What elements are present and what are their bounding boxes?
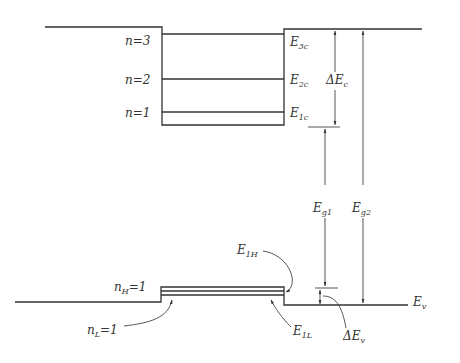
label-E1L: E1L xyxy=(292,324,312,340)
label-delta-Ec: ΔEc xyxy=(325,73,348,89)
label-n3: n=3 xyxy=(125,34,151,48)
label-Ev: Ev xyxy=(412,295,427,311)
label-E3c: E3c xyxy=(289,35,309,51)
label-nL: nL=1 xyxy=(87,323,118,339)
label-n2: n=2 xyxy=(125,73,150,87)
conduction-band-edge xyxy=(45,27,422,125)
label-n1: n=1 xyxy=(125,106,150,120)
label-nH: nH=1 xyxy=(114,280,146,296)
valence-subbands xyxy=(161,291,284,295)
conduction-subbands xyxy=(162,34,284,112)
label-E1H: E1H xyxy=(236,243,259,259)
label-delta-Ev: ΔEv xyxy=(342,329,365,345)
E1H-leader xyxy=(263,251,292,292)
band-diagram: n=3 n=2 n=1 E3c E2c E1c ΔEc Eg2 Eg1 ΔEv … xyxy=(0,0,460,363)
nL-leader xyxy=(124,300,172,326)
delta-Ev-leader xyxy=(323,296,346,328)
valence-band-edge xyxy=(15,287,408,305)
label-Eg1: Eg1 xyxy=(312,201,332,217)
label-E1c: E1c xyxy=(289,106,309,122)
E1L-leader xyxy=(271,300,291,327)
label-Eg2: Eg2 xyxy=(351,201,371,217)
label-E2c: E2c xyxy=(289,73,309,89)
